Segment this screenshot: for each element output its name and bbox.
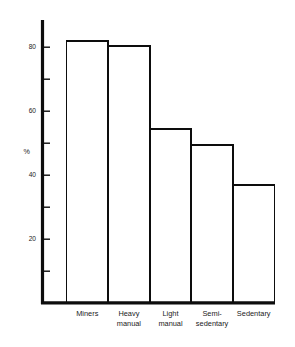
y-tick-label: 80	[29, 43, 37, 50]
y-axis-ticks	[44, 47, 50, 271]
y-tick-label: 60	[29, 107, 37, 114]
category-label: Semi-sedentary	[196, 309, 229, 328]
bar	[67, 41, 109, 303]
y-tick-labels: 20406080	[29, 43, 37, 242]
bar	[191, 145, 233, 303]
y-axis-title: %	[24, 147, 31, 156]
category-label: Lightmanual	[158, 309, 183, 328]
chart-canvas: 20406080 % MinersHeavymanualLightmanualS…	[0, 0, 295, 347]
category-label: Heavymanual	[117, 309, 142, 328]
category-label: Miners	[76, 309, 98, 318]
bar	[233, 185, 275, 303]
bar-chart: 20406080 % MinersHeavymanualLightmanualS…	[0, 0, 295, 347]
category-labels: MinersHeavymanualLightmanualSemi-sedenta…	[76, 309, 271, 328]
bar	[150, 129, 192, 303]
bar	[108, 46, 150, 304]
category-label: Sedentary	[237, 309, 271, 318]
y-tick-label: 20	[29, 235, 37, 242]
y-tick-label: 40	[29, 171, 37, 178]
bars-group	[67, 41, 275, 303]
